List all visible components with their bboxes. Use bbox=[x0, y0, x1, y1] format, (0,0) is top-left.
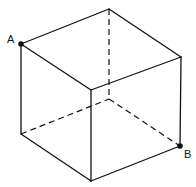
edge-bottom-front-left bbox=[21, 134, 91, 181]
edge-top-left bbox=[21, 9, 109, 44]
cube-diagram: A B bbox=[0, 0, 196, 187]
vertex-a-dot bbox=[18, 41, 24, 47]
edge-top-front-left bbox=[21, 44, 91, 90]
hidden-edge-back-left bbox=[21, 99, 109, 134]
hidden-edge-back-right bbox=[109, 99, 180, 146]
edge-top-front-right bbox=[91, 57, 181, 90]
edge-top-right bbox=[109, 9, 181, 57]
label-a: A bbox=[7, 33, 15, 45]
label-b: B bbox=[184, 148, 191, 160]
edge-right-vertical bbox=[180, 57, 181, 146]
vertex-b-dot bbox=[177, 143, 183, 149]
edge-bottom-front-right bbox=[91, 146, 180, 181]
